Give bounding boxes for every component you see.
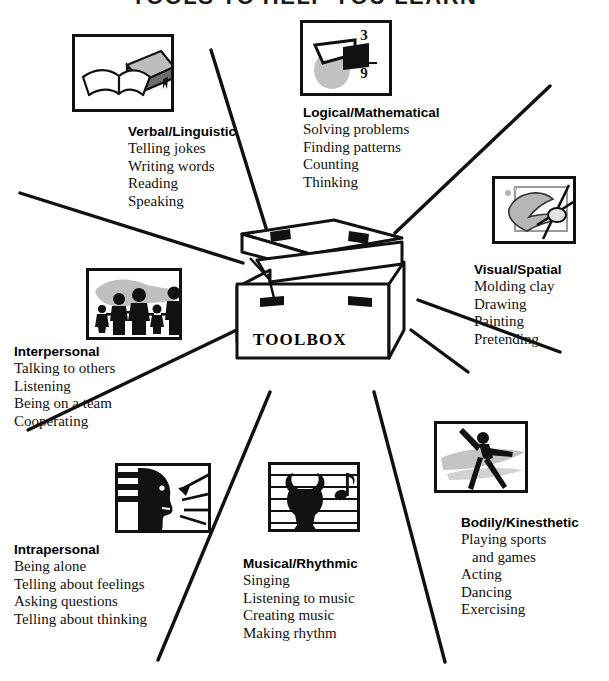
heading-bodily-kinesthetic: Bodily/Kinesthetic — [461, 515, 579, 531]
list-item: Speaking — [128, 193, 236, 211]
list-item: Being on a team — [14, 395, 115, 413]
list-item: Exercising — [461, 601, 579, 619]
heading-musical-rhythmic: Musical/Rhythmic — [243, 556, 358, 572]
list-item: Counting — [303, 156, 440, 174]
list-item: Acting — [461, 566, 579, 584]
lyre-music-staff-icon — [271, 465, 357, 529]
list-item: Singing — [243, 572, 358, 590]
math-fraction-bar — [355, 62, 377, 64]
list-item: Listening to music — [243, 590, 358, 608]
heading-intrapersonal: Intrapersonal — [14, 542, 147, 558]
heading-interpersonal: Interpersonal — [14, 344, 115, 360]
list-item: Molding clay — [474, 278, 562, 296]
card-visual-spatial — [492, 176, 576, 244]
list-item: Writing words — [128, 158, 236, 176]
card-bodily-kinesthetic — [434, 421, 528, 493]
list-item: Talking to others — [14, 360, 115, 378]
math-bottom-number: 9 — [347, 66, 381, 81]
list-item: Thinking — [303, 174, 440, 192]
card-musical-rhythmic — [268, 462, 360, 532]
heading-verbal-linguistic: Verbal/Linguistic — [128, 124, 236, 140]
list-item: Telling about feelings — [14, 576, 147, 594]
math-operator: + — [348, 46, 355, 59]
list-visual-spatial: Molding clay Drawing Painting Pretending — [474, 278, 562, 348]
list-item: Solving problems — [303, 121, 440, 139]
toolbox-label: TOOLBOX — [212, 330, 388, 350]
list-interpersonal: Talking to others Listening Being on a t… — [14, 360, 115, 430]
list-intrapersonal: Being alone Telling about feelings Askin… — [14, 558, 147, 628]
text-visual-spatial: Visual/Spatial Molding clay Drawing Pain… — [474, 262, 562, 348]
list-item: and games — [461, 549, 579, 567]
list-item: Listening — [14, 378, 115, 396]
list-musical-rhythmic: Singing Listening to music Creating musi… — [243, 572, 358, 642]
head-profile-arrows-icon — [118, 466, 208, 530]
card-verbal-linguistic — [72, 34, 174, 112]
toolbox-icon — [212, 212, 412, 392]
text-intrapersonal: Intrapersonal Being alone Telling about … — [14, 542, 147, 628]
card-logical-mathematical: 3 + 6 9 — [300, 20, 392, 96]
list-item: Pretending — [474, 331, 562, 349]
list-logical-mathematical: Solving problems Finding patterns Counti… — [303, 121, 440, 191]
text-logical-mathematical: Logical/Mathematical Solving problems Fi… — [303, 105, 440, 191]
list-item: Cooperating — [14, 413, 115, 431]
math-top-number: 3 — [347, 28, 381, 43]
dancing-figure-icon — [437, 424, 525, 490]
list-item: Playing sports — [461, 531, 579, 549]
list-verbal-linguistic: Telling jokes Writing words Reading Spea… — [128, 140, 236, 210]
text-bodily-kinesthetic: Bodily/Kinesthetic Playing sports and ga… — [461, 515, 579, 619]
books-icon — [75, 37, 171, 109]
text-interpersonal: Interpersonal Talking to others Listenin… — [14, 344, 115, 430]
list-item: Painting — [474, 313, 562, 331]
text-verbal-linguistic: Verbal/Linguistic Telling jokes Writing … — [128, 124, 236, 210]
list-item: Creating music — [243, 607, 358, 625]
list-item: Drawing — [474, 296, 562, 314]
list-item: Making rhythm — [243, 625, 358, 643]
math-middle-number: 6 — [360, 44, 368, 60]
list-item: Asking questions — [14, 593, 147, 611]
list-item: Reading — [128, 175, 236, 193]
paintbrush-artwork-icon — [495, 179, 573, 241]
text-musical-rhythmic: Musical/Rhythmic Singing Listening to mu… — [243, 556, 358, 642]
list-item: Telling about thinking — [14, 611, 147, 629]
card-interpersonal — [86, 268, 182, 340]
diagram-canvas: TOOLS TO HELP YOU LEARN — [0, 0, 609, 681]
toolbox-illustration: TOOLBOX — [212, 212, 412, 392]
heading-visual-spatial: Visual/Spatial — [474, 262, 562, 278]
list-item: Dancing — [461, 584, 579, 602]
list-item: Telling jokes — [128, 140, 236, 158]
list-item: Being alone — [14, 558, 147, 576]
card-intrapersonal — [115, 463, 211, 533]
list-bodily-kinesthetic: Playing sports and games Acting Dancing … — [461, 531, 579, 619]
page-title: TOOLS TO HELP YOU LEARN — [0, 0, 609, 10]
family-silhouettes-icon — [89, 271, 179, 337]
heading-logical-mathematical: Logical/Mathematical — [303, 105, 440, 121]
list-item: Finding patterns — [303, 139, 440, 157]
